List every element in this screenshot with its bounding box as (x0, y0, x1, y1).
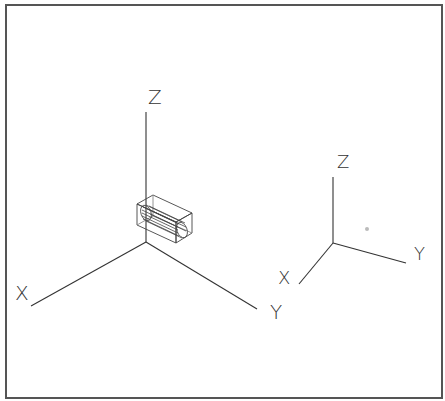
main-y-label: Y (270, 300, 282, 324)
main-x-axis (31, 242, 146, 306)
main-y-axis (146, 242, 257, 309)
main-axis-triad (31, 112, 257, 309)
model-bounding-box[interactable] (137, 195, 192, 243)
view-x-axis (299, 243, 333, 284)
main-x-label: X (15, 281, 29, 305)
pivot-marker (365, 227, 369, 231)
view-z-label: Z (337, 151, 349, 172)
view-y-axis (333, 243, 406, 263)
scene-canvas[interactable]: Z X Y Z X Y (0, 0, 445, 401)
view-x-label: X (278, 267, 290, 288)
view-y-label: Y (414, 243, 425, 264)
main-z-label: Z (148, 85, 162, 109)
view-axis-triad (299, 177, 406, 284)
